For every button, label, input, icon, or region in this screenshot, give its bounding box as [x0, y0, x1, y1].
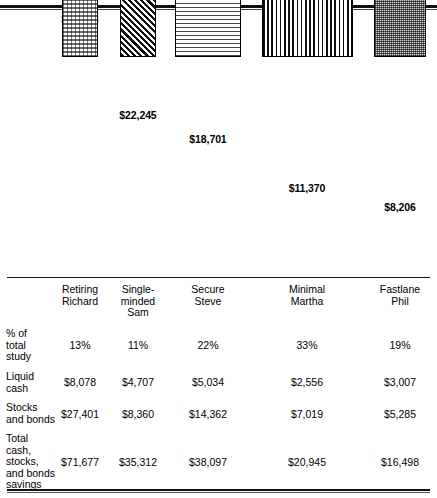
table-cell-3-4: $16,498 — [362, 456, 437, 468]
bar-value-label-3: $11,370 — [269, 182, 345, 194]
table-column-header-1: Single- minded Sam — [100, 284, 176, 319]
bottom-rule-thin — [7, 492, 430, 493]
figure-page: $36,198 $22,245 $18,701 $11,370 $8,206 R… — [0, 0, 437, 498]
bar-fastlane-phil[interactable] — [374, 0, 426, 57]
table-cell-0-3: 33% — [269, 339, 345, 351]
table-cell-0-1: 11% — [100, 339, 176, 351]
table-cell-3-3: $20,945 — [269, 456, 345, 468]
table-cell-2-2: $14,362 — [170, 408, 246, 420]
table-column-header-2: Secure Steve — [170, 284, 246, 307]
table-cell-2-4: $5,285 — [362, 408, 437, 420]
bar-value-label-1: $22,245 — [100, 109, 176, 121]
table-column-header-3: Minimal Martha — [269, 284, 345, 307]
bar-minimal-martha[interactable] — [262, 0, 353, 57]
table-cell-3-2: $38,097 — [170, 456, 246, 468]
bar-value-label-4: $8,206 — [362, 201, 437, 213]
bar-value-label-2: $18,701 — [170, 133, 246, 145]
table-cell-1-4: $3,007 — [362, 376, 437, 388]
table-cell-3-1: $35,312 — [100, 456, 176, 468]
table-cell-2-1: $8,360 — [100, 408, 176, 420]
bar-secure-steve[interactable] — [175, 0, 241, 57]
table-cell-0-4: 19% — [362, 339, 437, 351]
table-cell-1-3: $2,556 — [269, 376, 345, 388]
table-cell-0-2: 22% — [170, 339, 246, 351]
bar-single-minded-sam[interactable] — [120, 0, 156, 57]
table-cell-1-2: $5,034 — [170, 376, 246, 388]
table-cell-2-3: $7,019 — [269, 408, 345, 420]
bar-retiring-richard[interactable] — [62, 0, 98, 57]
summary-table: Retiring Richard Single- minded Sam Secu… — [0, 278, 437, 498]
table-column-header-4: Fastlane Phil — [362, 284, 437, 307]
bottom-rule-thick — [7, 489, 430, 491]
bar-chart: $36,198 $22,245 $18,701 $11,370 $8,206 — [0, 0, 437, 278]
table-cell-1-1: $4,707 — [100, 376, 176, 388]
